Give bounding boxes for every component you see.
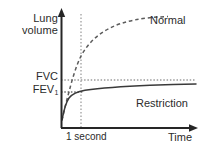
y-axis-arrowhead-icon (58, 8, 65, 17)
fev1-label-subscript: 1 (54, 89, 58, 96)
spirometry-chart: Lung volume FVC FEV1 Normal Restriction … (0, 0, 203, 152)
reference-lines (61, 14, 196, 128)
restriction-curve-label: Restriction (136, 98, 188, 110)
y-axis-label: Lung volume (22, 13, 58, 37)
normal-curve-label: Normal (150, 15, 185, 27)
fev1-label: FEV1 (33, 84, 58, 96)
fev1-label-text: FEV (33, 83, 54, 95)
one-second-tick-label: 1 second (66, 132, 107, 143)
y-axis-label-line2: volume (22, 25, 58, 37)
fvc-label: FVC (36, 71, 58, 83)
x-axis-label: Time (168, 132, 192, 144)
